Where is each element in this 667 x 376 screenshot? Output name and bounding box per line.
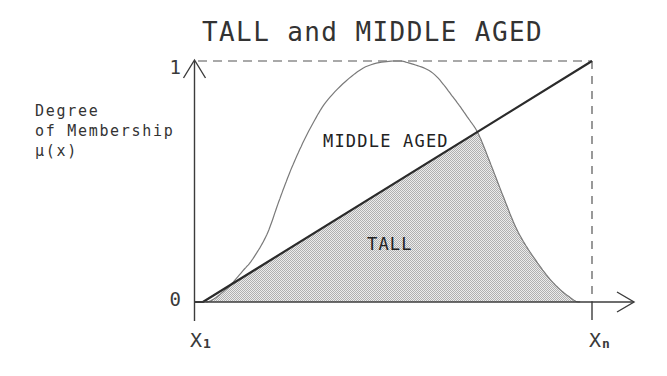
x-tick-label-x1: X1 [190, 328, 211, 352]
membership-diagram: TALL and MIDDLE AGED Degree of Membershi… [0, 0, 667, 376]
y-axis-label: Degree of Membership μ(x) [35, 102, 175, 160]
y-tick-label-1: 1 [170, 56, 181, 78]
chart-title: TALL and MIDDLE AGED [202, 17, 543, 47]
x-tick-label-x1-subscript: 1 [203, 336, 211, 351]
y-axis-label-line-3: μ(x) [35, 142, 78, 160]
x-tick-label-x1-base: X [190, 328, 202, 352]
x-tick-label-xn: Xn [589, 328, 610, 352]
x-tick-label-xn-base: X [589, 328, 601, 352]
intersection-shaded-area [195, 132, 580, 302]
x-tick-label-xn-subscript: n [602, 336, 610, 351]
y-tick-label-0: 0 [170, 288, 181, 310]
y-axis-label-line-2: of Membership [35, 122, 175, 140]
annotation-middle-aged: MIDDLE AGED [323, 131, 449, 151]
y-axis-label-line-1: Degree [35, 102, 99, 120]
annotation-tall: TALL [367, 234, 413, 254]
